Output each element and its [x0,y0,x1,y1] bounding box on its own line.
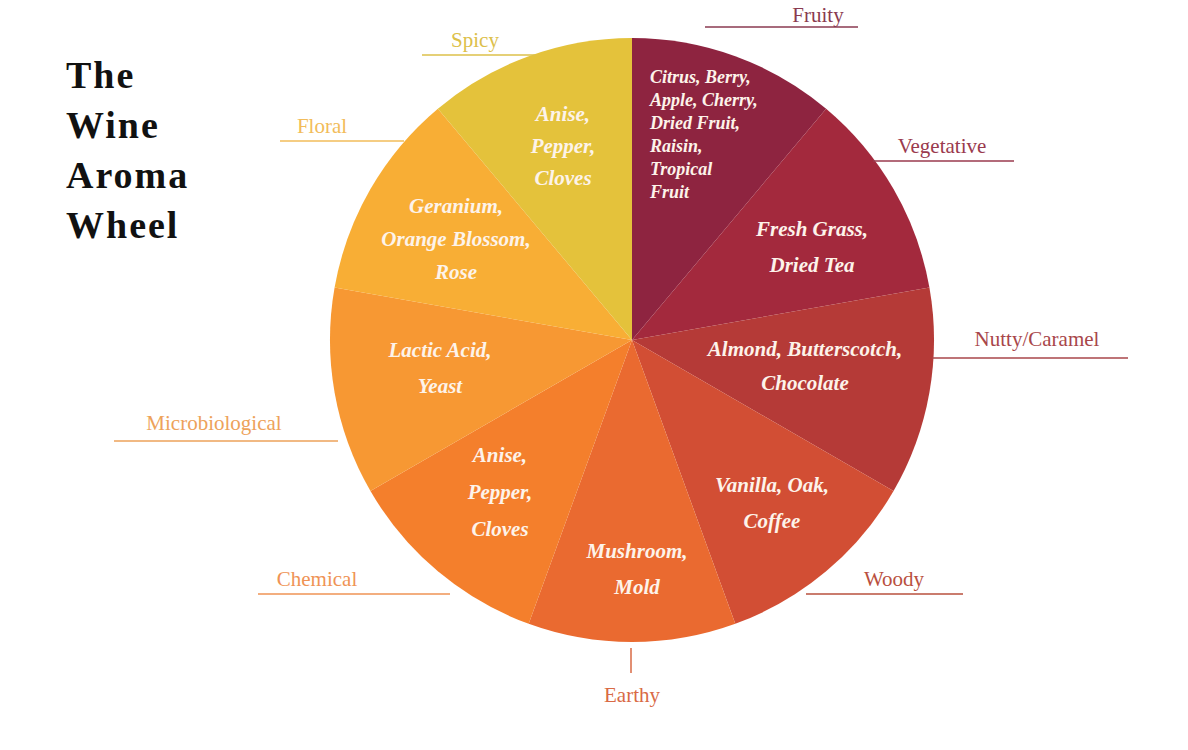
category-label-nutty-caramel: Nutty/Caramel [975,327,1100,351]
aroma-text: Apple, Cherry, [649,90,758,110]
aroma-text: Cloves [471,517,528,541]
aroma-text: Mushroom, [586,539,688,563]
aroma-text: Dried Tea [769,253,855,277]
category-label-woody: Woody [864,567,925,591]
aroma-text: Lactic Acid, [387,338,491,362]
category-label-earthy: Earthy [604,683,660,707]
aroma-text: Citrus, Berry, [650,67,751,87]
aroma-text: Coffee [744,509,801,533]
category-label-fruity: Fruity [792,3,844,27]
category-label-vegetative: Vegetative [898,134,987,158]
aroma-text: Chocolate [761,371,849,395]
aroma-text: Cloves [534,166,591,190]
aroma-text: Tropical [650,159,712,179]
aroma-text: Geranium, [409,194,503,218]
aroma-text: Fresh Grass, [755,217,868,241]
aroma-wheel: Fruity Citrus, Berry,Apple, Cherry,Dried… [0,0,1188,750]
aroma-text: Anise, [471,443,527,467]
category-label-floral: Floral [297,114,347,138]
aroma-text: Dried Fruit, [649,113,740,133]
aroma-text: Anise, [534,102,590,126]
aroma-text: Orange Blossom, [381,227,530,251]
category-label-spicy: Spicy [451,28,499,52]
aroma-text: Fruit [649,182,690,202]
aroma-text: Pepper, [530,134,596,158]
aroma-text: Yeast [418,374,463,398]
category-label-microbiological: Microbiological [146,411,281,435]
aroma-text: Almond, Butterscotch, [706,337,902,361]
aroma-text: Vanilla, Oak, [715,473,829,497]
aroma-text: Rose [434,260,477,284]
aroma-text: Pepper, [467,480,533,504]
aroma-text: Raisin, [649,136,703,156]
category-label-chemical: Chemical [277,567,358,591]
aroma-text: Mold [613,575,660,599]
